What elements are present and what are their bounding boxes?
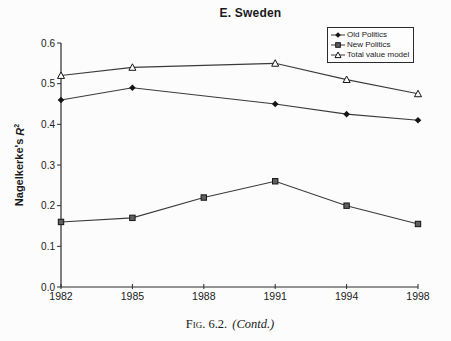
y-tick-label: 0.1 — [41, 241, 55, 252]
x-tick-label: 1998 — [406, 290, 430, 302]
legend-label: Old Politics — [347, 31, 387, 39]
legend-label: Total value model — [347, 51, 409, 59]
x-tick-label: 1991 — [264, 290, 288, 302]
legend-item-total-value-model: Total value model — [331, 50, 412, 60]
x-tick-label: 1994 — [335, 290, 359, 302]
diamond-marker — [272, 101, 279, 108]
legend-item-old-politics: Old Politics — [331, 30, 412, 40]
series-line-square — [61, 181, 418, 224]
diamond-marker-icon — [331, 31, 345, 39]
legend-box: Old Politics New Politics Total value mo… — [327, 27, 414, 63]
diamond-marker — [58, 97, 65, 104]
figure-number: Fig. 6.2. — [186, 317, 227, 331]
square-marker — [344, 203, 349, 208]
diamond-marker — [415, 117, 422, 124]
figure-panel: E. Sweden Nagelkerke'sR2 0.00.10.20.30.4… — [0, 0, 451, 341]
diamond-marker — [343, 111, 350, 118]
series-line-triangle — [61, 63, 418, 94]
legend-item-new-politics: New Politics — [331, 40, 412, 50]
square-marker — [58, 219, 63, 224]
x-tick-label: 1985 — [121, 290, 145, 302]
figure-contd: (Contd.) — [232, 317, 274, 331]
y-tick-label: 0.6 — [41, 38, 55, 49]
square-marker — [130, 215, 135, 220]
y-tick-label: 0.4 — [41, 119, 55, 130]
y-tick-label: 0.3 — [41, 160, 55, 171]
diamond-marker — [129, 84, 136, 91]
square-marker-icon — [331, 41, 345, 49]
y-tick-label: 0.2 — [41, 200, 55, 211]
legend-label: New Politics — [347, 41, 391, 49]
square-marker — [201, 195, 206, 200]
x-tick-label: 1982 — [49, 290, 73, 302]
series-line-diamond — [61, 88, 418, 121]
square-marker — [415, 221, 420, 226]
y-tick-label: 0.5 — [41, 78, 55, 89]
triangle-marker-icon — [331, 51, 345, 59]
x-tick-label: 1988 — [192, 290, 216, 302]
square-marker — [273, 179, 278, 184]
figure-caption: Fig. 6.2.(Contd.) — [9, 317, 451, 332]
